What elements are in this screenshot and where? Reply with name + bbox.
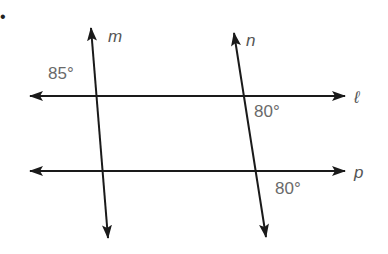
angle-label: 80°	[275, 179, 301, 198]
angle-label: 85°	[48, 64, 74, 83]
angle-label: 80°	[254, 102, 280, 121]
line-label-l: ℓ	[353, 88, 360, 107]
line-label-m: m	[108, 27, 122, 46]
parallel-lines-diagram: • mnℓp85°80°80°	[0, 0, 388, 254]
line-label-p: p	[353, 163, 363, 182]
line-label-n: n	[246, 31, 255, 50]
line-n-arrow	[234, 33, 266, 237]
line-m-arrow	[91, 28, 108, 238]
problem-marker: •	[0, 8, 6, 25]
